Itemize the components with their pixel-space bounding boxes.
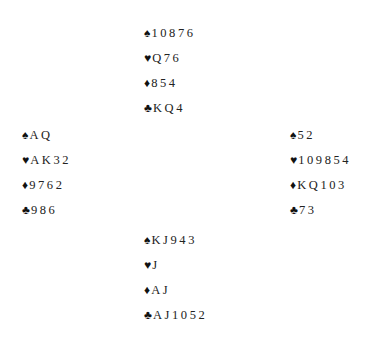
west-clubs: ♣986: [22, 203, 57, 217]
north-hearts-cards: Q76: [152, 51, 181, 65]
heart-icon: ♥: [144, 51, 151, 65]
east-diamonds-cards: KQ103: [297, 178, 347, 192]
west-diamonds: ♦9762: [22, 178, 65, 192]
south-diamonds: ♦AJ: [144, 283, 170, 297]
west-spades-cards: AQ: [29, 128, 52, 142]
spade-icon: ♠: [144, 233, 150, 247]
diamond-icon: ♦: [22, 178, 28, 192]
north-diamonds-cards: 854: [151, 76, 178, 90]
diamond-icon: ♦: [144, 283, 150, 297]
west-diamonds-cards: 9762: [29, 178, 64, 192]
heart-icon: ♥: [144, 258, 151, 272]
east-spades-cards: 52: [297, 128, 315, 142]
east-hearts-cards: 109854: [298, 153, 351, 167]
north-diamonds: ♦854: [144, 76, 178, 90]
south-clubs-cards: AJ1052: [153, 308, 208, 322]
club-icon: ♣: [290, 203, 298, 217]
heart-icon: ♥: [290, 153, 297, 167]
south-hearts: ♥J: [144, 258, 160, 272]
west-hearts-cards: AK32: [30, 153, 71, 167]
club-icon: ♣: [144, 101, 152, 115]
north-hearts: ♥Q76: [144, 51, 181, 65]
west-spades: ♠AQ: [22, 128, 53, 142]
east-diamonds: ♦KQ103: [290, 178, 347, 192]
east-clubs-cards: 73: [299, 203, 317, 217]
spade-icon: ♠: [22, 128, 28, 142]
north-spades-cards: 10876: [151, 26, 195, 40]
club-icon: ♣: [144, 308, 152, 322]
east-hearts: ♥109854: [290, 153, 351, 167]
west-clubs-cards: 986: [31, 203, 58, 217]
south-clubs: ♣AJ1052: [144, 308, 207, 322]
diamond-icon: ♦: [144, 76, 150, 90]
club-icon: ♣: [22, 203, 30, 217]
spade-icon: ♠: [144, 26, 150, 40]
east-clubs: ♣73: [290, 203, 317, 217]
north-spades: ♠10876: [144, 26, 196, 40]
diamond-icon: ♦: [290, 178, 296, 192]
south-spades: ♠KJ943: [144, 233, 197, 247]
south-diamonds-cards: AJ: [151, 283, 170, 297]
north-clubs: ♣KQ4: [144, 101, 185, 115]
west-hearts: ♥AK32: [22, 153, 71, 167]
east-spades: ♠52: [290, 128, 315, 142]
spade-icon: ♠: [290, 128, 296, 142]
north-clubs-cards: KQ4: [153, 101, 185, 115]
south-spades-cards: KJ943: [151, 233, 197, 247]
heart-icon: ♥: [22, 153, 29, 167]
south-hearts-cards: J: [152, 258, 159, 272]
